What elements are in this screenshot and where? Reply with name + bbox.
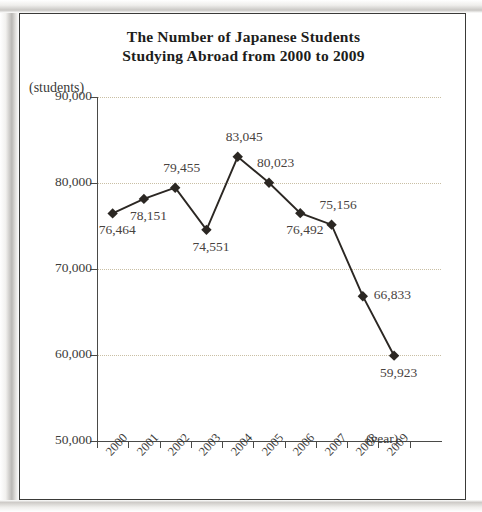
data-point-marker-2001 [139, 194, 149, 204]
y-axis-tick-label: 50,000 [12, 432, 92, 448]
value-label-2003: 74,551 [192, 239, 229, 255]
value-label-2007: 75,156 [320, 197, 357, 213]
y-axis-tick-label: 70,000 [12, 260, 92, 276]
x-axis-tick [97, 441, 98, 448]
value-label-2000: 76,464 [99, 222, 136, 238]
value-label-2005: 80,023 [257, 155, 294, 171]
chart-title-line-1: The Number of Japanese Students [127, 28, 360, 45]
data-series-line [97, 97, 441, 442]
scan-edge-shadow-top [0, 0, 482, 13]
y-axis-tick-label: 60,000 [12, 346, 92, 362]
plot-area: 90,00080,00070,00060,00050,000 76,46478,… [97, 97, 441, 441]
data-point-marker-2007 [326, 219, 336, 229]
chart-title-line-2: Studying Abroad from 2000 to 2009 [20, 46, 467, 65]
value-label-2008: 66,833 [374, 287, 411, 303]
data-point-marker-2000 [107, 208, 117, 218]
value-label-2002: 79,455 [163, 160, 200, 176]
y-axis-tick-label: 90,000 [12, 88, 92, 104]
value-label-2009: 59,923 [380, 365, 417, 381]
x-axis-title: (year) [366, 431, 398, 447]
chart-title: The Number of Japanese Students Studying… [20, 27, 467, 65]
value-label-2001: 78,151 [130, 208, 167, 224]
y-axis-tick-label: 80,000 [12, 174, 92, 190]
chart-frame: The Number of Japanese Students Studying… [19, 13, 466, 500]
value-label-2006: 76,492 [286, 222, 323, 238]
data-point-marker-2009 [389, 350, 399, 360]
data-point-marker-2008 [358, 291, 368, 301]
scan-edge-shadow-bottom [0, 500, 482, 512]
value-label-2004: 83,045 [226, 129, 263, 145]
